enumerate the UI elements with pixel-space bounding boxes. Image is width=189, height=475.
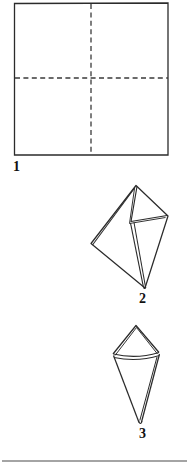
step-label-3: 3 [139, 427, 146, 441]
origami-figures-svg [0, 0, 189, 475]
fold-edge-upper-left-inner [93, 188, 136, 246]
figure-step-1 [15, 3, 169, 155]
fold-crease-step3-inner [140, 357, 157, 421]
fold-edge-step3-left [114, 356, 140, 423]
figure-step-2 [91, 186, 168, 289]
fold-flap-step2 [131, 187, 167, 222]
origami-diagram-root: 1 2 3 [0, 0, 189, 475]
fold-edge-step3-right [142, 354, 160, 422]
fold-band-step3-upper [114, 353, 160, 357]
fold-tip-step3 [139, 421, 142, 423]
step-label-2: 2 [139, 292, 146, 306]
fold-outline-step2 [91, 186, 168, 289]
fold-crease-step2-right [134, 223, 146, 288]
step-label-1: 1 [13, 160, 20, 174]
fold-cap-step3-inner [115, 328, 158, 356]
figure-step-3 [113, 326, 160, 424]
